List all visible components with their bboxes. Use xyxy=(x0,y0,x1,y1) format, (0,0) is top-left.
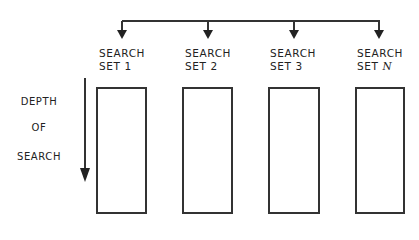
set-label-n-line2: SET N xyxy=(357,60,403,73)
search-set-box-2 xyxy=(182,87,233,214)
search-set-box-3 xyxy=(268,87,320,214)
down-arrow-set-1 xyxy=(117,21,127,39)
depth-label-line2: OF xyxy=(9,122,69,133)
set-label-n: SEARCH SET N xyxy=(357,47,403,73)
depth-label-line3: SEARCH xyxy=(9,151,69,162)
set-label-2: SEARCH SET 2 xyxy=(185,47,231,73)
set-label-2-line1: SEARCH xyxy=(185,47,231,60)
set-label-n-prefix: SET xyxy=(357,60,382,72)
set-label-n-variable: N xyxy=(382,60,392,72)
set-label-1-line1: SEARCH xyxy=(99,47,145,60)
down-arrow-set-3 xyxy=(289,21,299,39)
down-arrow-set-n xyxy=(374,21,384,39)
set-label-n-line1: SEARCH xyxy=(357,47,403,60)
set-label-1-line2: SET 1 xyxy=(99,60,145,73)
set-label-1: SEARCH SET 1 xyxy=(99,47,145,73)
set-label-2-line2: SET 2 xyxy=(185,60,231,73)
search-set-box-1 xyxy=(96,87,147,214)
set-label-3-line1: SEARCH xyxy=(270,47,316,60)
set-label-3: SEARCH SET 3 xyxy=(270,47,316,73)
search-set-box-n xyxy=(355,87,405,214)
down-arrow-set-2 xyxy=(203,21,213,39)
depth-arrow xyxy=(80,78,90,182)
depth-label-line1: DEPTH xyxy=(9,96,69,107)
set-label-3-line2: SET 3 xyxy=(270,60,316,73)
